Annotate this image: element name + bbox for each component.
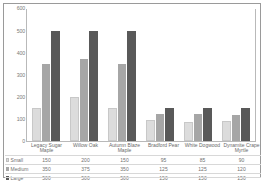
legend-label: Large	[11, 175, 24, 181]
bar-small	[32, 108, 41, 141]
bar-large	[241, 108, 250, 141]
y-axis-tick-500: 500	[5, 29, 25, 34]
table-row: Medium350375350125125120	[5, 164, 261, 173]
y-axis-tick-400: 400	[5, 51, 25, 56]
legend-item-small[interactable]: Small	[5, 155, 27, 164]
category-label: Autumn Blaze Maple	[105, 142, 144, 155]
bar-group	[217, 9, 255, 141]
bar-medium	[42, 64, 51, 141]
category-label: Willow Oak	[66, 142, 105, 155]
table-row: Small150200150958590	[5, 155, 261, 164]
table-cell-value: 200	[66, 155, 105, 164]
bar-medium	[194, 114, 203, 142]
bar-medium	[232, 115, 241, 141]
legend-swatch-icon	[6, 158, 9, 161]
bar-small	[70, 97, 79, 141]
bar-medium	[80, 59, 89, 142]
table-cell-value: 90	[222, 155, 261, 164]
table-cell-value: 350	[27, 164, 66, 173]
table-cell-value: 150	[27, 155, 66, 164]
category-label: Legacy Sugar Maple	[27, 142, 66, 155]
table-cell-value: 95	[144, 155, 183, 164]
bars-layer	[27, 9, 255, 141]
table-cell-value: 350	[105, 164, 144, 173]
bar-group	[27, 9, 65, 141]
table-cell-value: 120	[222, 164, 261, 173]
bar-large	[51, 31, 60, 141]
table-cell-value: 150	[105, 155, 144, 164]
y-axis: 6005004003002001000	[4, 9, 25, 142]
legend-item-medium[interactable]: Medium	[5, 164, 27, 173]
chart-frame: 6005004003002001000 Legacy Sugar MapleWi…	[3, 3, 261, 178]
bar-small	[222, 121, 231, 141]
legend-label: Medium	[11, 166, 29, 172]
table-cell-value: 125	[144, 164, 183, 173]
bar-large	[165, 108, 174, 141]
legend-swatch-icon	[6, 167, 9, 170]
table-header-row: Legacy Sugar MapleWillow OakAutumn Blaze…	[5, 142, 261, 155]
table-corner-cell	[5, 142, 27, 155]
bar-large	[203, 108, 212, 141]
bar-group	[103, 9, 141, 141]
y-axis-tick-600: 600	[5, 6, 25, 11]
bar-group	[179, 9, 217, 141]
data-table-grid: Legacy Sugar MapleWillow OakAutumn Blaze…	[5, 142, 261, 182]
bar-medium	[156, 114, 165, 142]
table-body: Small150200150958590Medium35037535012512…	[5, 155, 261, 182]
bar-group	[141, 9, 179, 141]
data-table: Legacy Sugar MapleWillow OakAutumn Blaze…	[5, 142, 261, 178]
bar-medium	[118, 64, 127, 141]
bar-small	[146, 120, 155, 141]
table-cell-value: 125	[183, 164, 222, 173]
table-cell-value: 85	[183, 155, 222, 164]
bar-small	[108, 108, 117, 141]
category-label: Dynamite Crape Myrtle	[222, 142, 261, 155]
table-bottom-rule	[5, 177, 261, 178]
legend-label: Small	[11, 157, 24, 163]
category-label: Bradford Pear	[144, 142, 183, 155]
bar-group	[65, 9, 103, 141]
bar-large	[127, 31, 136, 141]
y-axis-tick-300: 300	[5, 73, 25, 78]
category-label: White Dogwood	[183, 142, 222, 155]
table-cell-value: 375	[66, 164, 105, 173]
bar-large	[89, 31, 98, 141]
bar-small	[184, 122, 193, 141]
y-axis-tick-200: 200	[5, 95, 25, 100]
y-axis-tick-100: 100	[5, 117, 25, 122]
